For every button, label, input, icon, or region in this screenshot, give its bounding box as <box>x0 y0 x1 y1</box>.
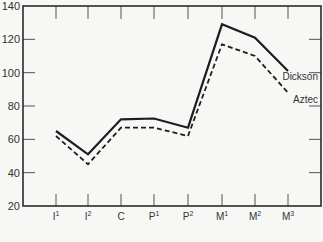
y-tick-label: 120 <box>2 33 20 45</box>
line-chart: 20406080100120140 I1I2CP1P2M1M2M3 Dickso… <box>0 0 323 242</box>
y-tick-label: 80 <box>8 100 20 112</box>
y-axis-labels: 20406080100120140 <box>2 0 20 212</box>
x-tick-label: C <box>117 211 124 222</box>
series-layer <box>56 24 288 164</box>
y-tick-label: 140 <box>2 0 20 12</box>
y-tick-label: 40 <box>8 167 20 179</box>
series-labels: DicksonAztec <box>282 71 318 105</box>
y-tick-label: 60 <box>8 133 20 145</box>
series-label-dickson: Dickson <box>282 71 318 82</box>
x-tick-label: M1 <box>216 210 228 222</box>
y-tick-label: 20 <box>8 200 20 212</box>
ticks-layer <box>23 6 321 206</box>
series-line-dickson <box>56 24 288 154</box>
x-tick-label: P1 <box>149 210 160 222</box>
x-tick-label: M2 <box>249 210 261 222</box>
plot-frame <box>23 6 321 206</box>
x-axis-labels: I1I2CP1P2M1M2M3 <box>53 210 295 222</box>
series-label-aztec: Aztec <box>293 94 318 105</box>
x-tick-label: I2 <box>85 210 92 222</box>
x-tick-label: I1 <box>53 210 60 222</box>
x-tick-label: P2 <box>183 210 194 222</box>
y-tick-label: 100 <box>2 67 20 79</box>
x-tick-label: M3 <box>282 210 294 222</box>
series-line-aztec <box>56 44 288 164</box>
